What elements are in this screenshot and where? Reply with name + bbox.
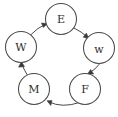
node-m[interactable]: M: [19, 74, 50, 105]
node-f-label: F: [81, 83, 89, 96]
edge-f-to-m-line: [49, 102, 80, 106]
edge-w-lower-to-f-arrowhead: [88, 69, 94, 74]
edge-e-to-w-lower: [74, 28, 89, 39]
node-m-label: M: [28, 83, 39, 96]
node-w-lower[interactable]: w: [84, 33, 115, 64]
edge-f-to-m-arrowhead: [47, 100, 52, 105]
edge-w-upper-to-e: [31, 23, 48, 35]
node-w-lower-label: w: [94, 43, 104, 56]
node-f[interactable]: F: [70, 74, 101, 105]
node-e-label: E: [57, 13, 65, 26]
node-e[interactable]: E: [46, 4, 77, 35]
node-w-upper[interactable]: W: [6, 32, 37, 63]
cycle-diagram-canvas: E w F M W: [0, 0, 118, 117]
edge-w-lower-to-f: [88, 64, 100, 74]
edge-m-to-w-upper: [19, 62, 27, 75]
cycle-diagram: E w F M W: [0, 0, 118, 117]
node-w-upper-label: W: [15, 41, 27, 54]
